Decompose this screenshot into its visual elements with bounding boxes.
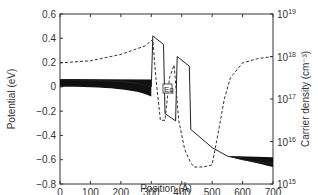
y2-tick-label: 1017	[277, 93, 296, 105]
y-ticks: 0.60.40.20−0.2−0.4−0.6−0.8	[36, 9, 63, 190]
x-ticks: 0100200300400500600700	[57, 14, 282, 195]
x-axis-title: Position (Å)	[140, 182, 192, 194]
y-tick-label: −0.6	[36, 154, 56, 165]
x-tick-label: 500	[204, 187, 221, 195]
carrier-density-curve	[60, 40, 273, 168]
y-tick-label: 0.2	[42, 57, 56, 68]
x-tick-label: 200	[113, 187, 130, 195]
y-tick-label: −0.8	[36, 179, 56, 190]
potential-curve	[60, 36, 273, 163]
y2-tick-label: 1016	[277, 136, 296, 148]
y2-ticks: 10191018101710161015	[270, 8, 296, 190]
y-tick-label: 0.4	[42, 33, 56, 44]
y-tick-label: 0.6	[42, 9, 56, 20]
svg-text:Eq: Eq	[164, 85, 174, 94]
y2-tick-label: 1015	[277, 178, 296, 190]
plot-area: 0100200300400500600700 0.60.40.20−0.2−0.…	[36, 8, 296, 195]
eq-annotation: Eq	[163, 84, 174, 94]
y2-tick-label: 1019	[277, 8, 296, 20]
x-tick-label: 100	[82, 187, 99, 195]
y2-tick-label: 1018	[277, 51, 296, 63]
x-tick-label: 600	[234, 187, 251, 195]
y-axis-title: Potential (eV)	[6, 69, 17, 130]
y2-axis-title: Carrier density (cm⁻³)	[300, 51, 311, 147]
y-tick-label: −0.4	[36, 130, 56, 141]
y-tick-label: 0	[50, 81, 56, 92]
chart: 0100200300400500600700 0.60.40.20−0.2−0.…	[0, 0, 318, 195]
y-tick-label: −0.2	[36, 106, 56, 117]
x-tick-label: 0	[57, 187, 63, 195]
